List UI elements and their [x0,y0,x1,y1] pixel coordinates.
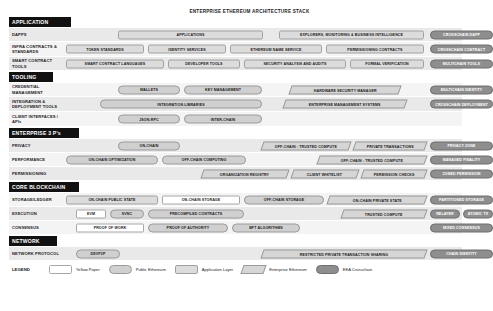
stack-item-cross[interactable]: CROSSCHAIN DEPLOYMENT [430,100,493,109]
stack-item-label: TRUSTED COMPUTE [365,212,403,216]
stack-item-label: CHAIN IDENTITY [446,252,476,256]
stack-item-label: RELAYER [436,212,454,216]
row-label: CREDENTIAL MANAGEMENT [9,84,66,94]
stack-item-label: PRIVACY ZONE [447,144,475,148]
stack-item-label: SECURITY ANALYSIS AND AUDITS [263,62,326,66]
stack-item-yellow[interactable]: EVM [76,209,106,218]
row-items: PROOF OF WORKPROOF OF AUTHORITYBFT ALGOR… [66,221,462,234]
stack-item-label: APPLICATIONS [177,33,205,37]
stack-item-public[interactable]: KEY MANAGEMENT [184,85,262,94]
stack-item-label: OFF-CHAIN COMPUTING [181,158,226,162]
stack-row: DAPPSAPPLICATIONSEXPLORERS, MONITORING &… [9,28,462,41]
diagram-title: ENTERPRISE ETHEREUM ARCHITECTURE STACK [0,9,471,14]
stack-item-ent[interactable]: HARDWARE SECURITY MANAGER [288,85,401,94]
stack-item-cross[interactable]: RELAYER [430,209,460,218]
stack-item-ent[interactable]: TRUSTED COMPUTE [340,209,427,218]
stack-item-label: SMART CONTRACT LANGUAGES [85,62,146,66]
stack-item-app[interactable]: FORMAL VERIFICATION [350,59,424,68]
legend-swatch-public [109,265,132,274]
stack-item-app[interactable]: SECURITY ANALYSIS AND AUDITS [244,59,346,68]
stack-item-label: OFF-CHAIN : TRUSTED COMPUTE [275,144,337,148]
stack-item-app[interactable]: PERMISSIONING CONTRACTS [326,45,424,54]
stack-item-public[interactable]: OFF-CHAIN COMPUTING [162,155,246,164]
stack-item-label: IDENTITY SERVICES [168,47,205,51]
row-label: CLIENT INTERFACES / APIs [9,114,66,124]
stack-item-label: ZONED PERMISSION [442,172,480,176]
stack-row: INTEGRATION & DEPLOYMENT TOOLSINTEGRATIO… [9,97,462,111]
stack-item-ent[interactable]: OFF-CHAIN : TRUSTED COMPUTE [316,155,427,164]
stack-row: PRIVACYON-CHAINOFF-CHAIN : TRUSTED COMPU… [9,139,462,152]
stack-item-label: ON-CHAIN PUBLIC STATE [88,198,135,202]
stack-item-app[interactable]: APPLICATIONS [118,30,263,39]
row-items: JSON-RPCINTER-CHAIN [66,112,462,126]
stack-item-label: EVM [87,212,95,216]
stack-item-cross[interactable]: CROSSCHAIN CONTRACT [430,45,493,54]
stack-item-label: MIXED CONSENSUS [443,226,480,230]
section-header-label: CORE BLOCKCHAIN [12,184,65,190]
stack-item-cross[interactable]: MANAGED FINALITY [430,155,493,164]
stack-item-cross[interactable]: MULTICHAIN TOOLS [430,59,493,68]
stack-item-label: DEVP2P [91,252,106,256]
stack-row: PERMISSIONINGORGANIZATION REGISTRYCLIENT… [9,167,462,180]
section-header-application: APPLICATION [9,17,71,27]
stack-item-cross[interactable]: ZONED PERMISSION [430,169,493,178]
stack-item-app[interactable]: EXPLORERS, MONITORING & BUSINESS INTELLI… [279,30,424,39]
legend-entry-label: Enterprise Ethereum [269,267,307,272]
stack-item-app[interactable]: ETHEREUM NAME SERVICE [230,45,322,54]
stack-item-label: CROSSCHAIN DEPLOYMENT [435,102,488,106]
stack-item-app[interactable]: DEVELOPER TOOLS [168,59,240,68]
stack-item-app[interactable]: ON-CHAIN PUBLIC STATE [66,195,158,204]
stack-row: EXECUTIONEVMSVNCPRECOMPILED CONTRACTSTRU… [9,207,462,220]
stack-item-label: OFF-CHAIN STORAGE [264,198,305,202]
stack-item-public[interactable]: SVNC [110,209,144,218]
stack-item-cross[interactable]: CROSSCHAIN DAPP [430,30,493,39]
stack-item-cross[interactable]: CHAIN IDENTITY [430,249,493,258]
stack-row: SMART CONTRACT TOOLSSMART CONTRACT LANGU… [9,57,462,70]
stack-item-public[interactable]: ON-CHAIN [118,141,180,150]
stack-item-label: CROSSCHAIN DAPP [443,33,480,37]
stack-item-cross[interactable]: PRIVACY ZONE [430,141,493,150]
stack-item-ent[interactable]: ON-CHAIN PRIVATE STATE [326,195,427,204]
stack-item-public[interactable]: OFF-CHAIN STORAGE [244,195,324,204]
stack-item-public[interactable]: BFT ALGORITHMS [232,223,300,232]
stack-item-ent[interactable]: PRIVATE TRANSACTIONS [352,141,427,150]
stack-item-cross[interactable]: MULTICHAIN IDENTITY [430,85,493,94]
legend-swatch-yellow [49,265,72,274]
stack-item-app[interactable]: TOKEN STANDARDS [66,45,144,54]
section-header-label: TOOLING [12,74,37,80]
stack-item-ent[interactable]: CLIENT WHITELIST [290,169,359,178]
stack-item-ent[interactable]: RESTRICTED PRIVATE TRANSACTION SHARING [260,249,427,258]
stack-item-cross[interactable]: ATOMIC TX [463,209,493,218]
stack-item-cross[interactable]: MIXED CONSENSUS [430,223,493,232]
legend-swatch-ent [241,265,267,274]
stack-item-yellow[interactable]: PROOF OF WORK [76,223,144,232]
legend-entry: Enterprise Ethereum [242,265,307,274]
row-label: EXECUTION [9,211,66,216]
stack-item-public[interactable]: DEVP2P [76,249,120,258]
stack-item-ent[interactable]: OFF-CHAIN : TRUSTED COMPUTE [260,141,351,150]
stack-item-ent[interactable]: ORGANIZATION REGISTRY [200,169,289,178]
stack-item-label: ATOMIC TX [468,212,489,216]
stack-item-label: RESTRICTED PRIVATE TRANSACTION SHARING [300,252,388,256]
stack-item-cross[interactable]: PARTITIONED STORAGE [430,195,493,204]
row-label: INFRA CONTRACTS & STANDARDS [9,44,66,54]
stack-item-ent[interactable]: ENTERPRISE MANAGEMENT SYSTEMS [282,100,407,109]
stack-item-public[interactable]: WALLETS [118,85,180,94]
stack-item-label: ON-CHAIN OPTIMIZATION [89,158,136,162]
stack-item-ent[interactable]: PERMISSION CHECKS [360,169,427,178]
stack-item-public[interactable]: ON-CHAIN OPTIMIZATION [66,155,158,164]
stack-item-public[interactable]: INTEGRATION LIBRARIES [100,100,262,109]
stack-item-yellow[interactable]: ON-CHAIN STORAGE [162,195,240,204]
stack-item-app[interactable]: IDENTITY SERVICES [148,45,226,54]
row-label: PERMISSIONING [9,171,66,176]
legend-swatch-app [175,265,198,274]
section-header-tooling: TOOLING [9,72,53,82]
legend-title: LEGEND [9,267,49,272]
stack-item-public[interactable]: JSON-RPC [118,115,180,124]
stack-row: STORAGE/LEDGERON-CHAIN PUBLIC STATEON-CH… [9,193,462,206]
stack-item-label: ETHEREUM NAME SERVICE [251,47,302,51]
stack-item-public[interactable]: INTER-CHAIN [184,115,262,124]
stack-item-public[interactable]: PROOF OF AUTHORITY [148,223,228,232]
stack-item-app[interactable]: SMART CONTRACT LANGUAGES [66,59,164,68]
stack-item-public[interactable]: PRECOMPILED CONTRACTS [148,209,244,218]
